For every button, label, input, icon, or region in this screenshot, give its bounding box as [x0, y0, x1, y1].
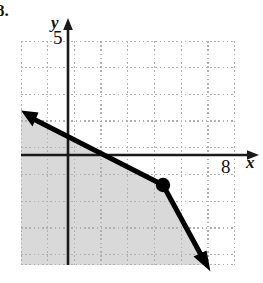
y-axis-tick-label-5: 5 [53, 28, 63, 47]
vertex-point-marker [156, 178, 170, 192]
y-axis-arrowhead [63, 18, 73, 30]
x-axis-label: x [246, 154, 255, 171]
graph-canvas [0, 0, 263, 283]
x-axis-tick-label-8: 8 [221, 157, 231, 176]
inequality-graph-figure: 8. [0, 0, 263, 283]
shaded-solution-region [21, 113, 208, 272]
